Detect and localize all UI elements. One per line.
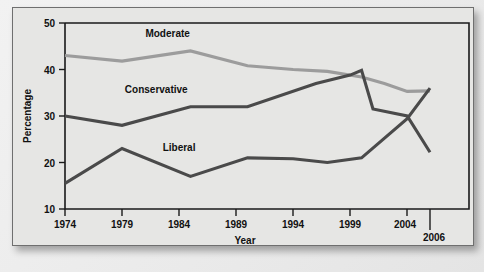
x-tick-label-1984: 1984	[168, 219, 191, 230]
x-axis-title: Year	[234, 235, 255, 245]
x-tick-label-1979: 1979	[111, 219, 134, 230]
y-tick-label-50: 50	[44, 18, 56, 29]
x-tick-label-2006: 2006	[423, 232, 446, 243]
y-tick-label-20: 20	[44, 158, 56, 169]
y-tick-label-40: 40	[44, 65, 56, 76]
y-axis-title: Percentage	[22, 89, 33, 143]
y-tick-label-10: 10	[44, 204, 56, 215]
chart-figure-card: 50 40 30 20 10 1974 1979 1984 1989 1994	[12, 7, 474, 246]
series-label-conservative: Conservative	[125, 84, 188, 95]
x-tick-label-1994: 1994	[282, 219, 305, 230]
x-tick-label-1989: 1989	[225, 219, 248, 230]
series-label-liberal: Liberal	[163, 142, 196, 153]
x-tick-label-2004: 2004	[394, 219, 417, 230]
series-label-moderate: Moderate	[145, 28, 190, 39]
x-tick-label-1974: 1974	[54, 219, 77, 230]
x-tick-label-1999: 1999	[339, 219, 362, 230]
page-background: 50 40 30 20 10 1974 1979 1984 1989 1994	[0, 0, 484, 272]
line-chart: 50 40 30 20 10 1974 1979 1984 1989 1994	[13, 8, 473, 245]
y-tick-label-30: 30	[44, 111, 56, 122]
